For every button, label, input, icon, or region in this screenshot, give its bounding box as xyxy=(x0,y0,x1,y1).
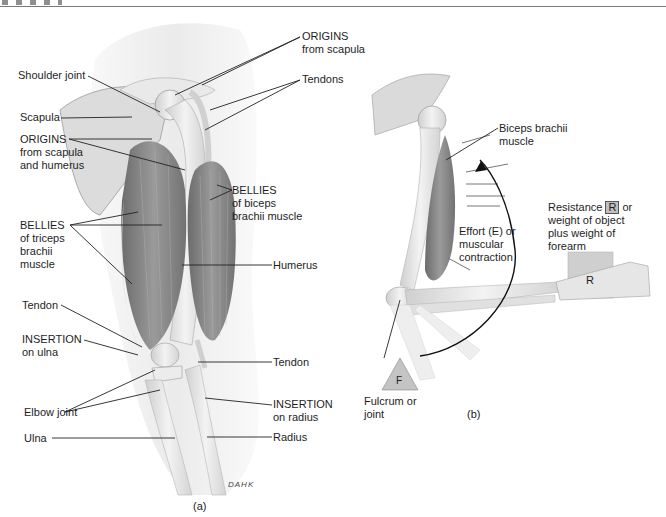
label-insertion-radius: INSERTION on radius xyxy=(273,398,333,424)
label-sub: muscle xyxy=(20,258,65,271)
label-humerus: Humerus xyxy=(273,259,318,272)
fulcrum-symbol: F xyxy=(396,374,402,387)
label-line: forearm xyxy=(548,240,632,253)
panel-a-arm xyxy=(60,23,259,495)
label-sub: and humerus xyxy=(20,159,84,172)
artist-signature: DAHK xyxy=(228,480,254,489)
label-text: Resistance xyxy=(548,201,602,213)
label-ulna: Ulna xyxy=(24,432,47,445)
label-insertion-ulna: INSERTION on ulna xyxy=(22,333,82,359)
label-line: muscle xyxy=(499,135,567,148)
label-line: Biceps brachii xyxy=(499,122,567,135)
label-line: Resistance R or xyxy=(548,201,632,214)
label-resistance: Resistance R or weight of object plus we… xyxy=(548,201,632,253)
label-origins-scapula: ORIGINS from scapula xyxy=(302,30,365,56)
label-line: weight of object xyxy=(548,214,632,227)
label-line: Fulcrum or xyxy=(364,395,417,408)
label-line: joint xyxy=(364,408,417,421)
label-biceps-brachii: Biceps brachii muscle xyxy=(499,122,567,148)
label-line: Effort (E) or xyxy=(459,225,516,238)
label-bellies-biceps: BELLIES of biceps brachii muscle xyxy=(232,184,302,223)
resistance-box-symbol: R xyxy=(605,201,619,214)
label-title: BELLIES xyxy=(232,184,302,197)
label-sub: from scapula xyxy=(20,146,84,159)
label-sub: of triceps xyxy=(20,232,65,245)
label-scapula: Scapula xyxy=(20,111,60,124)
caption-b: (b) xyxy=(467,408,480,420)
label-shoulder-joint: Shoulder joint xyxy=(18,69,85,82)
label-sub: on radius xyxy=(273,411,333,424)
label-title: BELLIES xyxy=(20,219,65,232)
label-fulcrum: Fulcrum or joint xyxy=(364,395,417,421)
label-title: INSERTION xyxy=(22,333,82,346)
label-effort: Effort (E) or muscular contraction xyxy=(459,225,516,264)
label-origins-scapula-humerus: ORIGINS from scapula and humerus xyxy=(20,133,84,172)
load-symbol: R xyxy=(586,274,594,287)
label-sub: from scapula xyxy=(302,43,365,56)
label-tendons: Tendons xyxy=(302,73,344,86)
label-text: or xyxy=(623,201,633,213)
label-bellies-triceps: BELLIES of triceps brachii muscle xyxy=(20,219,65,271)
label-sub: brachii xyxy=(20,245,65,258)
label-sub: brachii muscle xyxy=(232,210,302,223)
label-tendon-right: Tendon xyxy=(273,356,309,369)
label-title: INSERTION xyxy=(273,398,333,411)
label-line: muscular xyxy=(459,238,516,251)
label-elbow-joint: Elbow joint xyxy=(24,406,77,419)
label-title: ORIGINS xyxy=(302,30,365,43)
label-line: contraction xyxy=(459,251,516,264)
label-sub: of biceps xyxy=(232,197,302,210)
label-line: plus weight of xyxy=(548,227,632,240)
label-tendon-left: Tendon xyxy=(22,299,58,312)
label-title: ORIGINS xyxy=(20,133,84,146)
caption-a: (a) xyxy=(193,500,206,512)
label-radius: Radius xyxy=(273,431,307,444)
label-sub: on ulna xyxy=(22,346,82,359)
